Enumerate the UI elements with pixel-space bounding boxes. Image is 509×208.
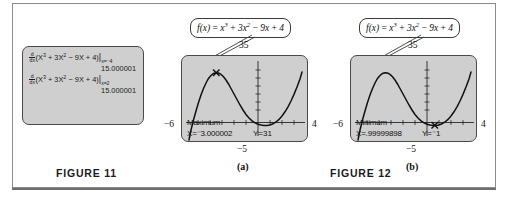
- figure-page: d dx (X3 + 3X2 − 9X + 4)|x=⁻4 15.000001 …: [0, 0, 509, 208]
- eval-subscript-1: x=⁻4: [101, 58, 112, 64]
- expr-body-2: (X3 + 3X2 − 9X + 4): [35, 75, 98, 84]
- graph-b-xmax-label: 4: [481, 119, 486, 129]
- graph-b-ymin-label: −5: [406, 144, 416, 154]
- graph-b-ymax-label: 35: [408, 40, 418, 50]
- graph-screen-a: Maximum X=⁻3.000002 Y=31: [181, 55, 308, 142]
- derivative-result-2: 15.000001: [29, 86, 138, 95]
- eval-bar-1: |: [99, 53, 101, 62]
- function-callout-a: f(x) = x3 + 3x2 − 9x + 4: [190, 18, 291, 38]
- eval-bar-2: |: [99, 75, 101, 84]
- graph-a-ymax-label: 35: [239, 40, 249, 50]
- graph-a-ymin-label: −5: [237, 144, 247, 154]
- graph-a-xmin-label: −6: [164, 119, 174, 129]
- page-bottom-rule: [12, 188, 496, 190]
- graph-b-sublabel: (b): [406, 161, 418, 172]
- eval-subscript-2: x=2: [101, 80, 109, 86]
- trace-y-value-a: Y=31: [253, 129, 272, 138]
- derivative-expression-1: d dx (X3 + 3X2 − 9X + 4)|x=⁻4: [29, 52, 138, 64]
- graph-a-sublabel: (a): [237, 161, 249, 172]
- derivative-result-1: 15.000001: [29, 64, 138, 73]
- expr-body-1: (X3 + 3X2 − 9X + 4): [35, 53, 98, 62]
- calculator-text-lines: d dx (X3 + 3X2 − 9X + 4)|x=⁻4 15.000001 …: [29, 52, 138, 95]
- trace-label-b: Minimum: [356, 118, 387, 127]
- trace-label-a: Maximum: [187, 118, 220, 127]
- graph-b-xmin-label: −6: [333, 119, 343, 129]
- figure-12-caption: FIGURE 12: [330, 167, 391, 179]
- graph-screen-b: Minimum X=.99999898 Y=⁻1: [350, 55, 477, 142]
- function-callout-b: f(x) = x3 + 3x2 − 9x + 4: [359, 18, 460, 38]
- derivative-expression-2: d dx (X3 + 3X2 − 9X + 4)|x=2: [29, 74, 138, 86]
- graph-a-xmax-label: 4: [312, 119, 317, 129]
- calculator-home-screen: d dx (X3 + 3X2 − 9X + 4)|x=⁻4 15.000001 …: [22, 46, 144, 125]
- trace-y-value-b: Y=⁻1: [422, 129, 440, 138]
- trace-x-value-b: X=.99999898: [356, 129, 402, 138]
- graph-panel-a: 35 −6 4 −5: [181, 55, 308, 142]
- graph-panel-b: 35 −6 4 −5: [350, 55, 477, 142]
- trace-x-value-a: X=⁻3.000002: [187, 129, 232, 138]
- figure-11-caption: FIGURE 11: [56, 167, 117, 179]
